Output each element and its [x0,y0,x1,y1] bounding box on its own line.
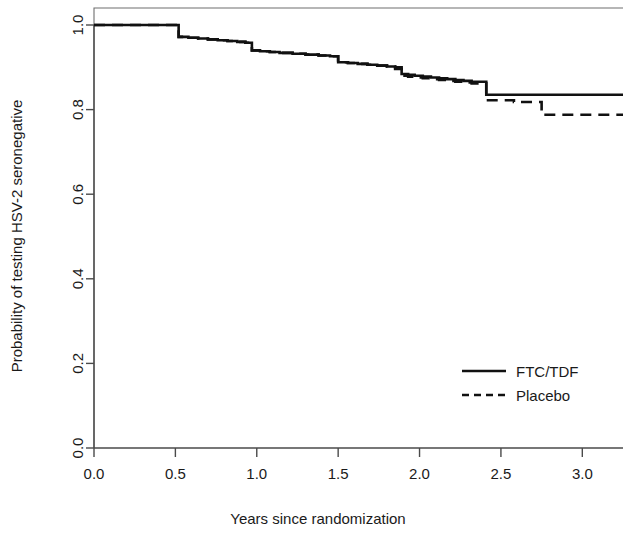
x-tick-label: 1.5 [328,465,349,482]
x-tick-label: 0.0 [84,465,105,482]
x-axis-title: Years since randomization [230,510,405,527]
y-tick-label: 1.0 [69,15,86,36]
legend-label-placebo: Placebo [516,387,570,404]
x-tick-label: 2.0 [409,465,430,482]
kaplan-meier-survival-chart: 0.00.20.40.60.81.0 0.00.51.01.52.02.53.0… [0,0,623,541]
y-tick-label: 0.4 [69,268,86,289]
y-axis-title: Probability of testing HSV-2 seronegativ… [8,100,25,373]
y-tick-label: 0.0 [69,438,86,459]
x-tick-label: 3.0 [572,465,593,482]
x-tick-label: 0.5 [165,465,186,482]
y-tick-label: 0.8 [69,99,86,120]
y-tick-label: 0.6 [69,184,86,205]
legend-label-ftc-tdf: FTC/TDF [516,363,578,380]
plot-area-background [94,8,623,448]
y-tick-label: 0.2 [69,353,86,374]
x-tick-label: 2.5 [490,465,511,482]
x-tick-label: 1.0 [246,465,267,482]
x-axis-ticks: 0.00.51.01.52.02.53.0 [84,448,593,482]
y-axis-ticks: 0.00.20.40.60.81.0 [69,15,94,459]
